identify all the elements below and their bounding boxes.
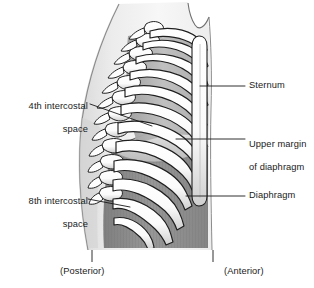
- label-upper-margin-of-diaphragm: Upper margin of diaphragm: [249, 127, 314, 173]
- label-4th-intercostal-space: 4th intercostal space: [6, 89, 88, 135]
- orientation-label-anterior: (Anterior): [224, 266, 264, 276]
- label-8th-intercostal-space: 8th intercostal space: [6, 184, 88, 230]
- label-8th-intercostal-line2: space: [63, 219, 88, 229]
- orientation-ticks: [92, 250, 213, 262]
- label-sternum: Sternum: [249, 80, 313, 92]
- label-upper-margin-line2: of diaphragm: [249, 162, 304, 172]
- sternum: [192, 36, 207, 206]
- label-8th-intercostal-line1: 8th intercostal: [29, 196, 88, 206]
- label-diaphragm: Diaphragm: [249, 190, 313, 202]
- label-4th-intercostal-line2: space: [63, 124, 88, 134]
- label-upper-margin-line1: Upper margin: [249, 139, 307, 149]
- orientation-label-posterior: (Posterior): [60, 266, 105, 276]
- label-4th-intercostal-line1: 4th intercostal: [29, 101, 88, 111]
